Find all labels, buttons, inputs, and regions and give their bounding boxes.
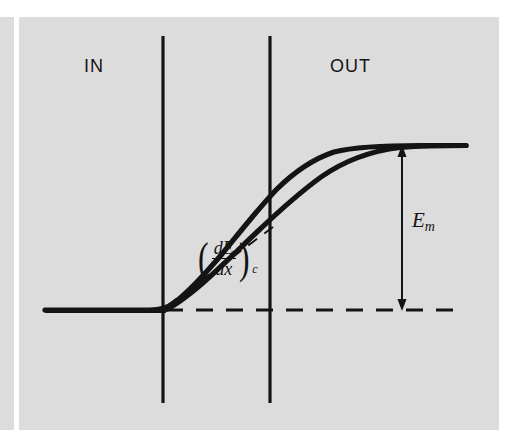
em-symbol: E [412,208,425,232]
em-measure-arrow [397,145,406,311]
em-label: Em [412,208,435,235]
slope-paren-open: ( [198,242,209,276]
slope-numerator: dE [212,239,236,259]
region-label-in: IN [84,56,104,77]
slope-subscript: c [251,262,257,279]
region-label-out: OUT [330,56,371,77]
slope-fraction: dE dx [211,239,237,279]
figure-root: IN OUT Em ( dE dx ) c [0,0,518,441]
slope-denominator: dx [213,259,234,278]
em-arrow-head-bottom [397,299,406,311]
plot-canvas [0,0,518,441]
em-subscript: m [425,219,435,234]
slope-paren-close: ) [239,242,250,276]
critical-slope-label: ( dE dx ) c [196,239,258,279]
